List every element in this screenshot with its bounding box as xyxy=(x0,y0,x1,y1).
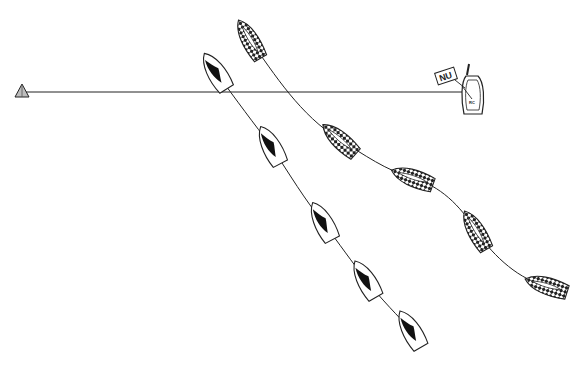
diagram-canvas: RC NU xyxy=(0,0,584,368)
signal-flag-icon: NU xyxy=(435,67,465,88)
boat-solid-icon xyxy=(196,48,234,93)
committee-boat-label: RC xyxy=(469,100,475,105)
checkered-boat-track xyxy=(250,40,547,286)
race-start-diagram: RC NU xyxy=(0,0,584,368)
boat-checkered-icon xyxy=(231,16,268,63)
boat-checkered-icon xyxy=(317,118,361,160)
boat-checkered-icon xyxy=(388,162,435,193)
boat-checkered-icon xyxy=(522,271,569,301)
boat-solid-icon xyxy=(347,256,384,302)
pin-buoy-icon xyxy=(15,84,29,97)
committee-boat-icon: RC xyxy=(462,64,484,114)
boat-checkered-icon xyxy=(457,207,494,254)
boat-solid-icon xyxy=(392,306,429,352)
